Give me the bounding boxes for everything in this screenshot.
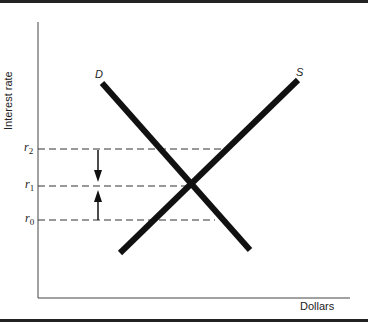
- supply-curve: [120, 80, 298, 253]
- r2-tick-label: r2: [24, 140, 33, 156]
- y-axis-label: Interest rate: [2, 20, 16, 130]
- demand-label: D: [95, 68, 103, 80]
- supply-label: S: [296, 66, 303, 78]
- down-arrow-icon: [94, 150, 102, 182]
- r0-tick-label: r0: [25, 211, 34, 227]
- chart-frame: Interest rate Dollars D S r2 r1 r0: [0, 0, 368, 327]
- demand-curve: [102, 83, 250, 250]
- r1-tick-label: r1: [25, 177, 34, 193]
- up-arrow-icon: [94, 190, 102, 220]
- x-axis-label: Dollars: [300, 300, 334, 312]
- chart-plot: [0, 0, 368, 327]
